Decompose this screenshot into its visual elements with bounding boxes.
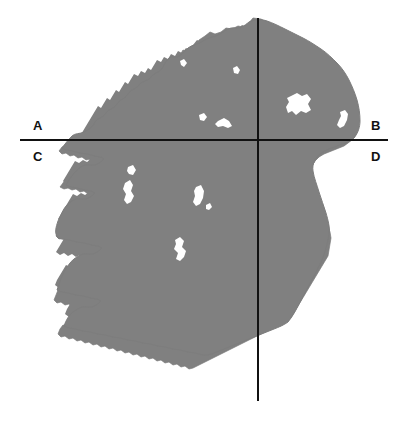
figure-canvas: A B C D: [0, 0, 408, 424]
quadrant-label-a: A: [33, 119, 43, 132]
ireland-final-layer: [0, 0, 408, 424]
quadrant-label-b: B: [371, 119, 381, 132]
ireland-outline: [56, 20, 360, 355]
horizontal-axis: [20, 139, 388, 141]
quadrant-label-c: C: [33, 150, 43, 163]
quadrant-label-d: D: [371, 150, 381, 163]
vertical-axis: [257, 18, 259, 401]
